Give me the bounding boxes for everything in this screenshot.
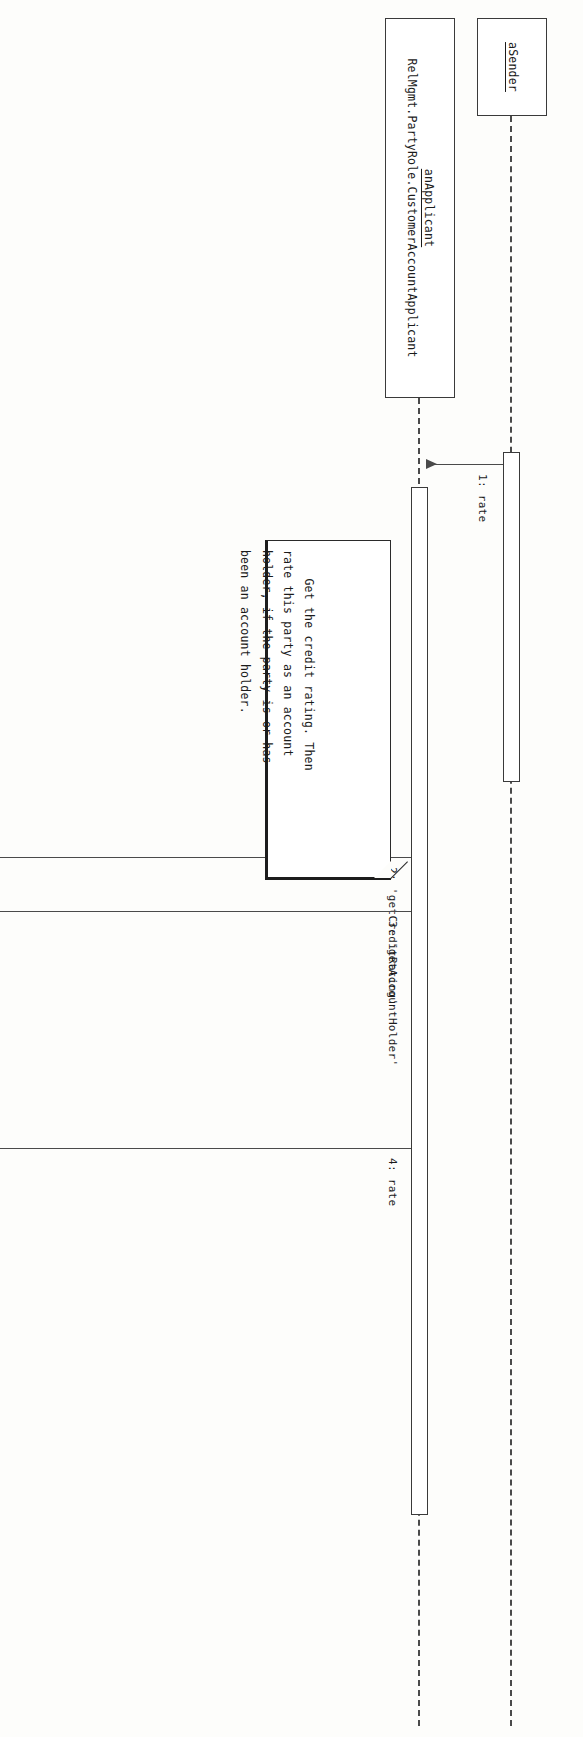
message-4-shaft: [0, 1148, 411, 1149]
lifeline-class-applicant: RelMgmt.PartyRole.CustomerAccountApplica…: [404, 58, 420, 357]
lifeline-head-sender[interactable]: aSender: [477, 18, 547, 116]
note-rate-text: Get the credit rating. Then rate this pa…: [238, 550, 316, 771]
sequence-diagram-canvas: aSender anApplicant RelMgmt.PartyRole.Cu…: [0, 0, 583, 1737]
activation-bar-sender: [503, 452, 520, 782]
activation-bar-applicant: [411, 487, 428, 1515]
message-1-label: 1: rate: [476, 474, 489, 522]
message-3-label: 3: 'getAccountHolder': [386, 921, 399, 1066]
lifeline-line-sender: [510, 116, 512, 1726]
note-fold-icon: [374, 861, 391, 878]
message-4-label: 4: rate: [386, 1158, 399, 1206]
message-1-shaft: [430, 464, 503, 465]
message-3-shaft: [0, 911, 411, 912]
lifeline-head-applicant[interactable]: anApplicant RelMgmt.PartyRole.CustomerAc…: [385, 18, 455, 398]
message-1-arrowhead: [426, 459, 437, 469]
lifeline-name-applicant: anApplicant: [421, 169, 437, 247]
note-rate[interactable]: Get the credit rating. Then rate this pa…: [265, 540, 391, 880]
lifeline-name-sender: aSender: [505, 42, 521, 92]
